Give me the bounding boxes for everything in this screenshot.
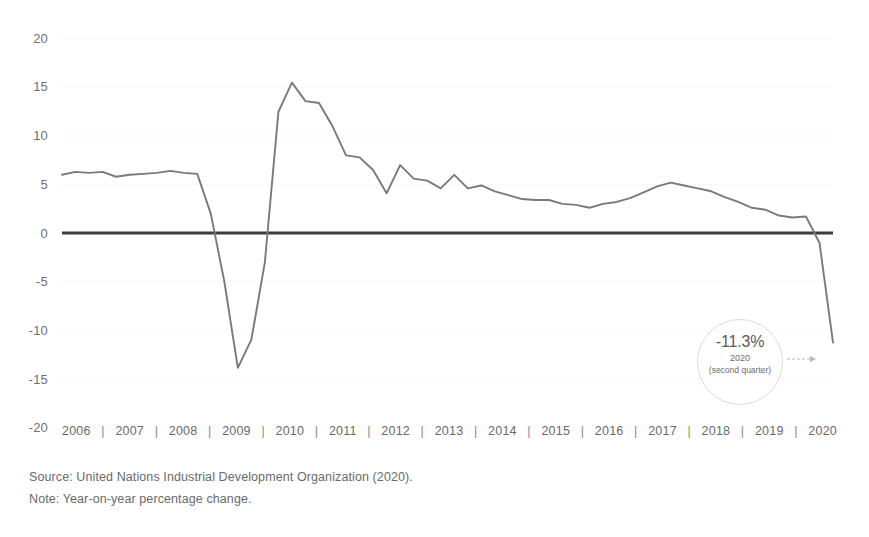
- x-axis-separator: |: [100, 424, 105, 438]
- x-tick-2014: 2014: [488, 424, 517, 438]
- x-axis-separator: |: [420, 424, 425, 438]
- x-tick-2013: 2013: [435, 424, 464, 438]
- annotation-arrow-icon: [787, 356, 816, 362]
- y-tick-15: 15: [14, 79, 48, 94]
- y-tick-neg5: -5: [14, 274, 48, 289]
- x-tick-2019: 2019: [755, 424, 784, 438]
- x-tick-2016: 2016: [595, 424, 624, 438]
- x-axis-separator: |: [793, 424, 798, 438]
- x-axis-separator: |: [633, 424, 638, 438]
- y-tick-0: 0: [14, 226, 48, 241]
- x-axis-separator: |: [207, 424, 212, 438]
- x-tick-2006: 2006: [62, 424, 91, 438]
- x-axis-separator: |: [526, 424, 531, 438]
- annotation-year-label: 2020: [697, 353, 783, 363]
- x-tick-2020: 2020: [808, 424, 837, 438]
- x-tick-2015: 2015: [541, 424, 570, 438]
- x-tick-2007: 2007: [115, 424, 144, 438]
- y-tick-20: 20: [14, 31, 48, 46]
- x-axis-separator: |: [473, 424, 478, 438]
- y-tick-neg10: -10: [14, 323, 48, 338]
- x-axis-separator: |: [740, 424, 745, 438]
- note-line: Note: Year-on-year percentage change.: [29, 488, 729, 510]
- y-tick-5: 5: [14, 177, 48, 192]
- x-axis-separator: |: [366, 424, 371, 438]
- x-axis-separator: |: [154, 424, 159, 438]
- x-tick-2018: 2018: [702, 424, 731, 438]
- footnotes-block: Source: United Nations Industrial Develo…: [29, 466, 729, 510]
- x-axis-tick-labels: 2006|2007|2008|2009|2010|2011|2012|2013|…: [62, 424, 837, 438]
- chart-figure: 20 15 10 5 0 -5 -10 -15 -20 2006|2007|20…: [0, 0, 869, 537]
- source-note: Source: United Nations Industrial Develo…: [29, 466, 729, 488]
- x-tick-2011: 2011: [329, 424, 357, 438]
- x-axis-separator: |: [314, 424, 319, 438]
- x-tick-2017: 2017: [648, 424, 677, 438]
- x-axis-separator: |: [686, 424, 691, 438]
- x-tick-2008: 2008: [169, 424, 198, 438]
- x-axis-separator: |: [260, 424, 265, 438]
- y-tick-neg20: -20: [14, 420, 48, 435]
- y-tick-neg15: -15: [14, 372, 48, 387]
- annotation-value-label: -11.3%: [697, 333, 783, 351]
- x-tick-2010: 2010: [276, 424, 305, 438]
- line-chart-plot: [0, 0, 869, 537]
- x-tick-2009: 2009: [222, 424, 251, 438]
- y-tick-10: 10: [14, 128, 48, 143]
- annotation-period-label: (second quarter): [689, 365, 791, 375]
- x-tick-2012: 2012: [381, 424, 410, 438]
- x-axis-separator: |: [580, 424, 585, 438]
